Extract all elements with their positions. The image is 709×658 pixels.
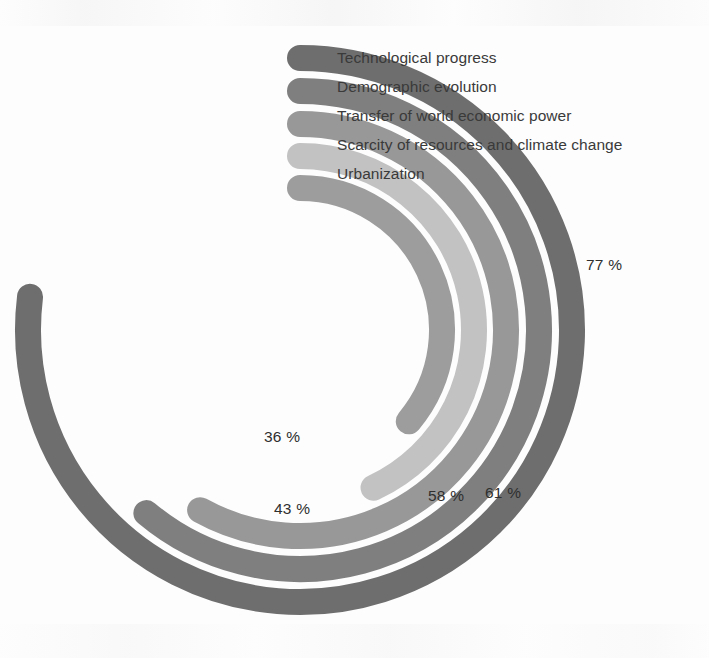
legend-item-label: Scarcity of resources and climate change	[337, 136, 622, 153]
legend: Technological progress Demographic evolu…	[337, 43, 677, 188]
legend-item-label: Transfer of world economic power	[337, 107, 571, 124]
radial-bar-chart: Technological progress Demographic evolu…	[0, 0, 709, 658]
value-label-scarcity-of-resources: 43 %	[274, 500, 310, 518]
legend-item-urbanization: Urbanization	[337, 159, 677, 188]
legend-item-technological-progress: Technological progress	[337, 43, 677, 72]
legend-item-label: Demographic evolution	[337, 78, 497, 95]
legend-item-transfer-of-world-economic-power: Transfer of world economic power	[337, 101, 677, 130]
value-label-transfer-of-world-economic-power: 58 %	[428, 487, 464, 505]
legend-item-demographic-evolution: Demographic evolution	[337, 72, 677, 101]
legend-item-label: Technological progress	[337, 49, 497, 66]
legend-item-label: Urbanization	[337, 165, 425, 182]
legend-item-scarcity-of-resources-and-climate-change: Scarcity of resources and climate change	[337, 130, 677, 159]
value-label-technological-progress: 77 %	[586, 256, 622, 274]
value-label-demographic-evolution: 61 %	[485, 484, 521, 502]
value-label-urbanization: 36 %	[264, 428, 300, 446]
